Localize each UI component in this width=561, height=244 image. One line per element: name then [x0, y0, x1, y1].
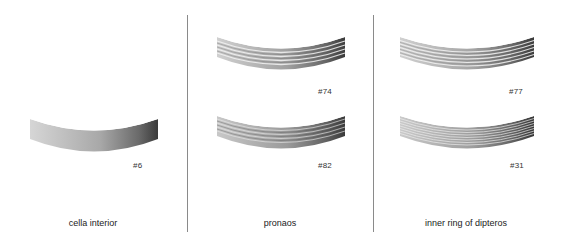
- panel-divider-2: [373, 15, 374, 232]
- drum-id-label: #82: [318, 161, 332, 170]
- column-drum-fluted-fine: [215, 101, 347, 157]
- column-drum-fluted-wide: [215, 22, 347, 78]
- drum-id-label: #31: [510, 161, 524, 170]
- panel-divider-1: [187, 15, 188, 232]
- column-drum-fluted-fine: [398, 101, 536, 157]
- drum-id-label: #74: [318, 87, 332, 96]
- drum-id-label: #77: [509, 87, 523, 96]
- drum-comparison-figure: #6 cella interior: [0, 0, 561, 244]
- drum-id-label: #6: [133, 161, 142, 170]
- panel-caption: pronaos: [187, 218, 373, 228]
- panel-caption: inner ring of dipteros: [373, 218, 559, 228]
- column-drum-fluted-wide: [398, 22, 536, 78]
- column-drum-plain: [28, 104, 160, 160]
- panel-caption: cella interior: [0, 218, 186, 228]
